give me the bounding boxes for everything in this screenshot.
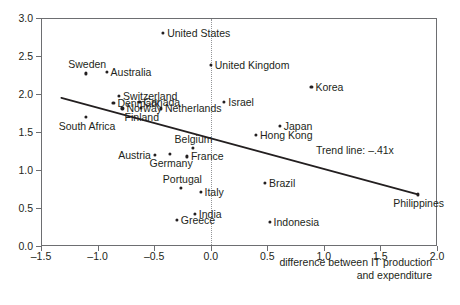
data-point-label: Italy [205,187,224,198]
trend-line-label: Trend line: –.41x [316,144,394,156]
data-point-label: Sweden [68,59,106,70]
y-tick-mark [36,208,41,209]
y-tick-label: 2.5 [2,50,33,62]
data-point-label: Greece [181,215,215,226]
y-tick-label: 3.0 [2,12,33,24]
data-point-label: Germany [149,158,192,169]
y-tick-mark [36,18,41,19]
x-tick-label: –1.0 [78,250,118,262]
y-tick-label: 2.0 [2,88,33,100]
data-point-label: Finland [125,112,159,123]
data-point-label: Hong Kong [260,130,313,141]
data-point-label: Australia [111,67,152,78]
scatter-chart: 0.00.51.01.52.02.53.0 –1.5–1.0–0.50.00.5… [0,0,460,305]
data-point-label: Brazil [269,178,295,189]
y-tick-label: 0.5 [2,202,33,214]
data-point-label: Belgium [175,134,213,145]
x-tick-label: –1.5 [21,250,61,262]
data-point-label: Israel [228,97,254,108]
data-point-label: France [191,151,224,162]
y-tick-mark [36,132,41,133]
data-point-label: United Kingdom [215,60,290,71]
data-point-label: Netherlands [165,103,222,114]
plot-area [41,18,437,246]
y-tick-mark [36,94,41,95]
x-axis-title-line-1: difference between IT production [180,256,432,269]
x-axis-title-line-2: and expenditure [180,269,432,282]
data-point-label: Austria [118,150,151,161]
y-tick-mark [36,170,41,171]
y-tick-mark [36,56,41,57]
y-tick-label: 1.0 [2,164,33,176]
data-point-label: South Africa [59,121,116,132]
y-tick-label: 1.5 [2,126,33,138]
x-tick-label: –0.5 [134,250,174,262]
data-point-label: United States [167,28,230,39]
data-point-label: Korea [315,82,343,93]
data-point-label: Indonesia [274,217,320,228]
x-axis-title: difference between IT production and exp… [180,256,432,282]
data-point-label: Philippines [393,198,444,209]
data-point-label: Portugal [163,174,202,185]
